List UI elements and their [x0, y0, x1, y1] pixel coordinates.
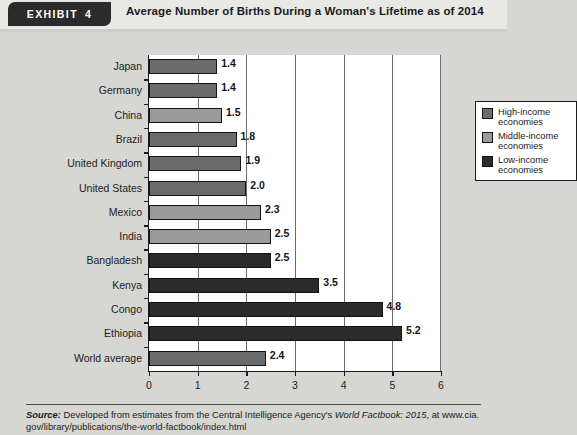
legend-swatch-icon — [482, 156, 493, 167]
exhibit-tag: EXHIBIT 4 — [8, 2, 111, 26]
chart-container: 1.41.41.51.81.92.02.32.52.53.54.85.22.4 … — [0, 32, 507, 390]
x-tick-3 — [295, 371, 296, 376]
legend-item-high-income: High-incomeeconomies — [482, 107, 570, 127]
x-axis-label-3: 3 — [285, 379, 305, 391]
bar-value-label: 1.4 — [221, 81, 236, 93]
x-tick-6 — [441, 371, 442, 376]
x-axis-label-2: 2 — [236, 379, 256, 391]
legend-swatch-icon — [482, 132, 493, 143]
bar-row: 1.9 — [149, 152, 441, 176]
bar-row: 2.5 — [149, 225, 441, 249]
bar-value-label: 2.0 — [250, 179, 265, 191]
category-label-united-states: United States — [0, 182, 142, 194]
legend-swatch-icon — [482, 108, 493, 119]
bar-value-label: 2.4 — [270, 349, 285, 361]
category-label-india: India — [0, 230, 142, 242]
bar-row: 1.8 — [149, 128, 441, 152]
bar-mexico — [149, 205, 261, 220]
legend-item-low-income: Low-incomeeconomies — [482, 155, 570, 175]
bar-value-label: 2.5 — [275, 227, 290, 239]
bar-value-label: 3.5 — [323, 276, 338, 288]
bar-india — [149, 229, 271, 244]
bar-japan — [149, 59, 217, 74]
bar-row: 4.8 — [149, 298, 441, 322]
x-tick-0 — [149, 371, 150, 376]
legend-label-line2: economies — [498, 141, 558, 151]
y-tick — [144, 322, 149, 323]
legend-label: Middle-incomeeconomies — [498, 131, 558, 151]
source-divider — [26, 404, 481, 405]
bar-value-label: 1.8 — [241, 130, 256, 142]
legend-label-line2: economies — [498, 165, 548, 175]
category-label-world-average: World average — [0, 352, 142, 364]
category-label-brazil: Brazil — [0, 133, 142, 145]
y-tick — [144, 152, 149, 153]
exhibit-tag-word: EXHIBIT — [27, 8, 78, 20]
bar-value-label: 1.5 — [226, 106, 241, 118]
x-tick-1 — [198, 371, 199, 376]
legend-label-line1: Low-income — [498, 155, 548, 165]
source-note: Source: Developed from estimates from th… — [26, 409, 496, 432]
category-label-mexico: Mexico — [0, 206, 142, 218]
bar-row: 3.5 — [149, 274, 441, 298]
bar-row: 5.2 — [149, 322, 441, 346]
bar-value-label: 1.4 — [221, 57, 236, 69]
chart-legend: High-incomeeconomiesMiddle-incomeeconomi… — [475, 101, 577, 181]
exhibit-tag-number: 4 — [85, 8, 92, 20]
bar-row: 2.3 — [149, 201, 441, 225]
plot-area: 1.41.41.51.81.92.02.32.52.53.54.85.22.4 … — [148, 55, 441, 372]
legend-item-middle-income: Middle-incomeeconomies — [482, 131, 570, 151]
bar-value-label: 2.5 — [275, 251, 290, 263]
bar-brazil — [149, 132, 237, 147]
bar-row: 2.0 — [149, 177, 441, 201]
source-url-line: gov/library/publications/the-world-factb… — [26, 421, 246, 432]
category-label-germany: Germany — [0, 84, 142, 96]
y-tick — [144, 298, 149, 299]
bar-row: 1.4 — [149, 79, 441, 103]
legend-label: Low-incomeeconomies — [498, 155, 548, 175]
exhibit-header: EXHIBIT 4 Average Number of Births Durin… — [0, 0, 507, 30]
bar-value-label: 1.9 — [245, 154, 260, 166]
bar-row: 1.4 — [149, 55, 441, 79]
x-axis-label-6: 6 — [431, 379, 451, 391]
bar-row: 1.5 — [149, 104, 441, 128]
y-tick — [144, 225, 149, 226]
x-tick-2 — [246, 371, 247, 376]
x-axis-label-0: 0 — [139, 379, 159, 391]
category-label-japan: Japan — [0, 60, 142, 72]
category-label-united-kingdom: United Kingdom — [0, 157, 142, 169]
x-tick-5 — [392, 371, 393, 376]
bar-united-kingdom — [149, 156, 241, 171]
source-text-2: , at www.cia. — [426, 409, 479, 420]
legend-label: High-incomeeconomies — [498, 107, 550, 127]
y-tick — [144, 177, 149, 178]
source-text-1: Developed from estimates from the Centra… — [64, 409, 335, 420]
bar-value-label: 4.8 — [387, 300, 402, 312]
legend-label-line1: High-income — [498, 107, 550, 117]
y-tick — [144, 249, 149, 250]
category-label-kenya: Kenya — [0, 279, 142, 291]
category-label-bangladesh: Bangladesh — [0, 254, 142, 266]
bar-united-states — [149, 181, 246, 196]
x-axis-label-1: 1 — [188, 379, 208, 391]
y-tick — [144, 347, 149, 348]
bar-kenya — [149, 278, 319, 293]
bar-bangladesh — [149, 253, 271, 268]
bar-china — [149, 108, 222, 123]
bar-germany — [149, 83, 217, 98]
category-label-ethiopia: Ethiopia — [0, 327, 142, 339]
page-title: Average Number of Births During a Woman'… — [126, 5, 484, 17]
bar-row: 2.5 — [149, 249, 441, 273]
category-label-china: China — [0, 109, 142, 121]
bar-value-label: 5.2 — [406, 324, 421, 336]
x-tick-4 — [344, 371, 345, 376]
bar-row: 2.4 — [149, 347, 441, 371]
legend-label-line2: economies — [498, 117, 550, 127]
bar-world-average — [149, 351, 266, 366]
bar-value-label: 2.3 — [265, 203, 280, 215]
y-tick — [144, 79, 149, 80]
y-tick — [144, 201, 149, 202]
category-label-congo: Congo — [0, 303, 142, 315]
source-label: Source: — [26, 409, 61, 420]
y-tick — [144, 104, 149, 105]
